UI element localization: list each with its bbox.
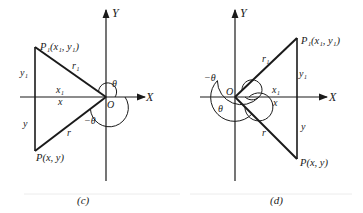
rotation-diagram: Y X O P₁(x₁, y₁) P(x, y) y₁ y x₁ x r₁ r … — [0, 0, 363, 213]
side-y1-label: y₁ — [19, 67, 28, 78]
radius-r1-line — [35, 47, 106, 97]
side-x1-label: x₁ — [271, 84, 280, 95]
side-y-label: y — [300, 121, 306, 132]
side-x1-label: x₁ — [55, 84, 64, 95]
x-axis-label: X — [328, 90, 337, 104]
side-x-label: x — [272, 97, 278, 108]
radius-r1-line — [235, 38, 297, 97]
radius-r1-label: r₁ — [72, 60, 79, 71]
caption-c: (c) — [77, 194, 90, 207]
point-p1-label: P₁(x₁, y₁) — [39, 41, 79, 53]
radius-r-line — [235, 97, 297, 159]
theta-label: θ — [218, 103, 223, 114]
panel-c: Y X O P₁(x₁, y₁) P(x, y) y₁ y x₁ x r₁ r … — [19, 6, 180, 207]
y-axis-label: Y — [112, 6, 120, 20]
side-y1-label: y₁ — [298, 68, 307, 79]
radius-r-label: r — [67, 127, 71, 138]
theta-label: θ — [112, 78, 117, 89]
radius-r-label: r — [262, 127, 266, 138]
caption-d: (d) — [270, 194, 283, 207]
origin-label: O — [226, 86, 233, 97]
side-y-label: y — [22, 118, 28, 129]
y-axis-label: Y — [240, 6, 248, 20]
neg-theta-label: −θ — [84, 115, 96, 126]
radius-r1-label: r₁ — [262, 53, 269, 64]
point-p-label: P(x, y) — [299, 157, 328, 169]
neg-theta-label: −θ — [204, 72, 216, 83]
point-p1-label: P₁(x₁, y₁) — [300, 35, 340, 47]
side-x-label: x — [57, 96, 63, 107]
x-axis-label: X — [145, 90, 154, 104]
panel-d: Y X O P₁(x₁, y₁) P(x, y) y₁ y x₁ x r₁ r … — [190, 6, 352, 207]
point-p-label: P(x, y) — [35, 152, 64, 164]
origin-label: O — [107, 99, 114, 110]
